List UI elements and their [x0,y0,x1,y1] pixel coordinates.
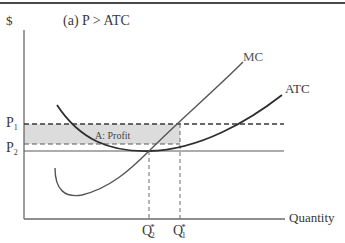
q2-subscript: 2 [151,231,155,240]
q2-label: Q*2 [142,224,155,238]
p2-subscript: 2 [14,148,18,157]
cost-curves-diagram [0,0,345,243]
figure-title: (a) P > ATC [63,14,130,28]
p1-letter: P [6,115,14,130]
p1-subscript: 1 [14,123,18,132]
p1-label: P1 [6,116,18,130]
atc-label: ATC [285,82,310,95]
mc-label: MC [243,50,263,63]
q1-label: Q*1 [173,224,186,238]
q1-subscript: 1 [182,231,186,240]
profit-label: A: Profit [95,131,130,141]
p2-label: P2 [6,141,18,155]
x-axis-label: Quantity [289,211,335,224]
p2-letter: P [6,140,14,155]
y-axis-label: $ [6,14,13,27]
